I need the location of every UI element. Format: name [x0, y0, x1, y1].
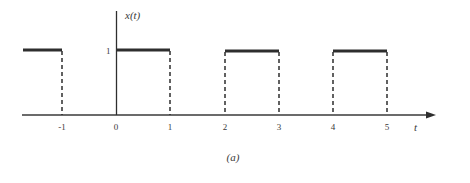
x-axis-label: t [414, 121, 418, 133]
chart: x(t) 1 -1 0 1 2 3 4 5 t (a) [0, 0, 470, 183]
x-tick-label: 5 [385, 122, 390, 132]
x-axis-arrow-icon [426, 112, 436, 119]
dashed-edges [62, 51, 387, 115]
y-tick-1: 1 [106, 46, 111, 56]
x-tick-label: 1 [168, 122, 173, 132]
signal-pulses [23, 50, 387, 51]
x-tick-label: 4 [331, 122, 336, 132]
x-tick-label: -1 [58, 122, 66, 132]
x-tick-label: 2 [223, 122, 228, 132]
y-axis-label: x(t) [124, 9, 141, 22]
x-tick-label: 0 [114, 122, 119, 132]
figure-caption: (a) [227, 151, 240, 164]
x-tick-label: 3 [277, 122, 282, 132]
